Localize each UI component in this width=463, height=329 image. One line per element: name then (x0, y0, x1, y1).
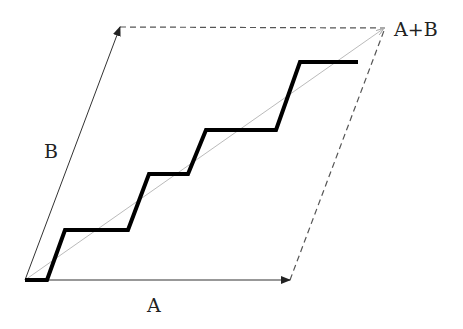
vector-b-arrow (25, 27, 120, 280)
staircase-path (25, 62, 358, 280)
label-b: B (44, 142, 58, 161)
vector-diagram (0, 0, 463, 329)
sum-diagonal (25, 29, 383, 280)
dashed-right-edge (290, 28, 385, 280)
label-a: A (147, 296, 161, 315)
dashed-top-edge (120, 27, 385, 28)
label-sum: A+B (394, 20, 438, 39)
